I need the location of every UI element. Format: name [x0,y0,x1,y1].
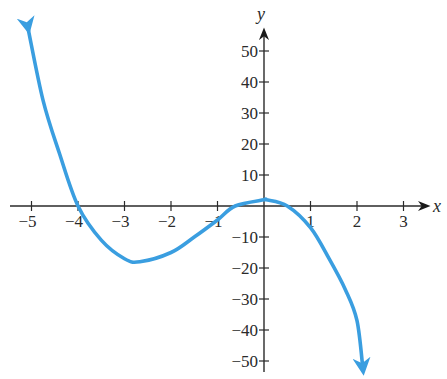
y-tick-label: 20 [241,135,258,154]
x-tick-label: −5 [18,212,36,231]
y-tick-label: −20 [231,259,258,278]
x-tick-label: −3 [111,212,129,231]
y-tick-label: 50 [241,42,258,61]
x-tick-label: 2 [353,212,362,231]
y-tick-label: −50 [231,352,258,371]
y-tick-label: −40 [231,321,258,340]
chart: x y −5−4−3−2−1123 5040302010−10−20−30−40… [0,0,447,379]
function-curve [28,29,363,370]
y-tick-label: 40 [241,73,258,92]
y-tick-label: 10 [241,166,258,185]
y-tick-label: −10 [231,228,258,247]
x-axis-label: x [432,196,441,216]
x-tick-label: −2 [158,212,176,231]
y-tick-label: 30 [241,104,258,123]
x-tick-label: 3 [399,212,408,231]
y-axis-label: y [255,4,265,24]
axes: x y −5−4−3−2−1123 5040302010−10−20−30−40… [10,4,441,372]
y-tick-label: −30 [231,290,258,309]
